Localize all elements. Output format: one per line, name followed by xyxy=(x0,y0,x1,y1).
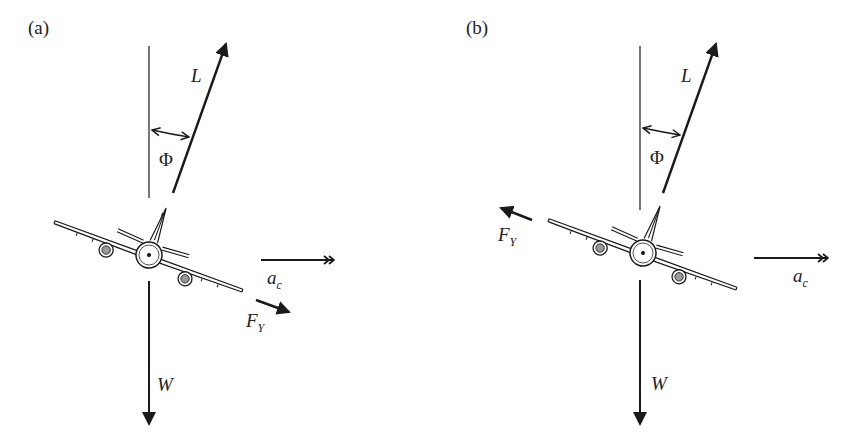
bank-angle-arc xyxy=(643,128,680,135)
aircraft-icon xyxy=(543,172,754,303)
lift-arrow-lower-segment xyxy=(663,190,664,193)
panel-a-label: (a) xyxy=(28,18,49,37)
side-force-label: FY xyxy=(246,311,264,330)
bank-angle-arc xyxy=(152,130,189,137)
panel-b xyxy=(501,44,828,424)
side-force-label: FY xyxy=(498,225,516,244)
centripetal-accel-label: ac xyxy=(267,268,282,287)
lift-label: L xyxy=(191,66,202,85)
panel-b-label: (b) xyxy=(466,18,488,37)
side-force-arrow xyxy=(501,208,532,220)
aircraft-icon xyxy=(49,174,260,305)
weight-label: W xyxy=(651,374,667,393)
bank-angle-label: Φ xyxy=(159,150,173,169)
panel-a xyxy=(49,44,334,424)
diagram-canvas xyxy=(0,0,858,445)
bank-angle-label: Φ xyxy=(650,148,664,167)
centripetal-accel-label: ac xyxy=(793,266,808,285)
weight-label: W xyxy=(157,375,173,394)
lift-label: L xyxy=(681,66,692,85)
